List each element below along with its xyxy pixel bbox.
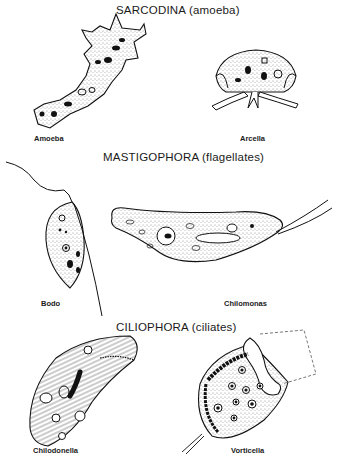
chilomonas-illustration <box>106 196 338 280</box>
label-chilomonas: Chilomonas <box>224 299 267 308</box>
label-vorticella: Vorticella <box>231 446 264 455</box>
chilodonella-illustration <box>26 330 144 450</box>
label-bodo: Bodo <box>41 299 60 308</box>
label-amoeba: Amoeba <box>34 134 64 143</box>
label-chilodonella: Chilodonella <box>33 446 78 455</box>
vorticella-illustration <box>172 324 322 454</box>
amoeba-illustration <box>30 10 150 130</box>
bodo-illustration <box>4 160 104 320</box>
arcella-illustration <box>208 48 300 112</box>
label-arcella: Arcella <box>240 134 265 143</box>
section-heading-mastigophora: MASTIGOPHORA (flagellates) <box>103 151 264 163</box>
